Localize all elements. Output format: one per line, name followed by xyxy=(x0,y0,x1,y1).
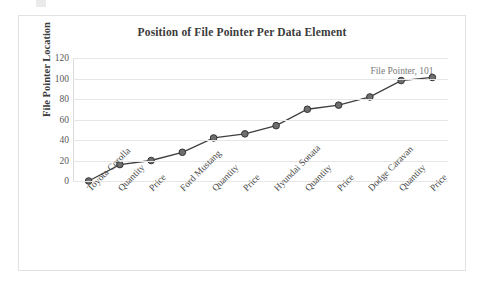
data-point-marker xyxy=(179,149,186,156)
gridline xyxy=(73,58,448,59)
gridline xyxy=(73,140,448,141)
y-axis-tick-label: 40 xyxy=(60,135,70,145)
data-point-marker xyxy=(242,131,249,138)
data-point-marker xyxy=(304,106,311,113)
y-axis-tick-label: 120 xyxy=(55,53,69,63)
data-label-annotation: File Pointer, 101 xyxy=(370,66,433,76)
y-axis-tick-label: 20 xyxy=(60,156,70,166)
y-axis-tick-labels: 020406080100120 xyxy=(33,58,69,181)
x-axis-tick-labels: Toyota CorollaQuantityPriceFord MustangQ… xyxy=(73,186,448,266)
gridline xyxy=(73,120,448,121)
data-point-marker xyxy=(335,102,342,109)
cut-off-content-artifact xyxy=(36,0,46,7)
gridline xyxy=(73,99,448,100)
chart-container: Position of File Pointer Per Data Elemen… xyxy=(18,15,466,271)
data-point-marker xyxy=(273,122,280,129)
y-axis-tick-label: 0 xyxy=(64,176,69,186)
y-axis-tick-label: 100 xyxy=(55,74,69,84)
gridline xyxy=(73,79,448,80)
y-axis-tick-label: 60 xyxy=(60,115,70,125)
y-axis-tick-label: 80 xyxy=(60,94,70,104)
chart-title: Position of File Pointer Per Data Elemen… xyxy=(19,26,465,38)
